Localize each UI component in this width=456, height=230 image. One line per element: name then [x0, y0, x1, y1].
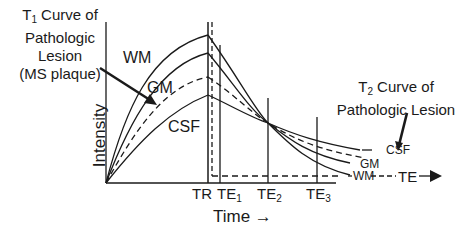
tick-te3: TE3 — [306, 186, 331, 204]
csf-label-left: CSF — [168, 119, 200, 135]
t2-title: T2 Curve of — [336, 78, 456, 101]
tick-te3-text: TE — [306, 185, 325, 202]
gm-label-left: GM — [147, 80, 173, 96]
x-axis-label: Time → — [213, 208, 272, 225]
wm-label-left: WM — [123, 50, 151, 66]
tick-te2-sub: 2 — [276, 193, 282, 204]
tick-te1-text: TE — [217, 185, 236, 202]
tick-te3-sub: 3 — [325, 193, 331, 204]
csf-label-right: CSF — [386, 144, 410, 156]
t1-annotation: T1 Curve of Pathologic Lesion (MS plaque… — [4, 6, 116, 83]
t2-title-t: T — [358, 78, 367, 95]
tick-te2: TE2 — [257, 186, 282, 204]
tick-te2-text: TE — [257, 185, 276, 202]
te-arrowhead-icon — [430, 170, 442, 182]
y-axis-label: Intensity — [91, 96, 108, 176]
t1-title-t: T — [22, 6, 31, 23]
t1-curve-wm — [106, 35, 208, 183]
tick-tr: TR — [192, 186, 212, 201]
t2-curve-gm — [208, 53, 350, 163]
wm-label-right: WM — [353, 170, 374, 182]
t1-line2: Pathologic — [4, 29, 116, 47]
t1-title: T1 Curve of — [4, 6, 116, 29]
t1-line4: (MS plaque) — [4, 65, 116, 83]
t1-line3: Lesion — [4, 47, 116, 65]
t2-annotation: T2 Curve of Pathologic Lesion — [336, 78, 456, 119]
tick-te1-sub: 1 — [236, 193, 242, 204]
t2-line2: Pathologic Lesion — [336, 101, 456, 119]
tick-te1: TE1 — [217, 186, 242, 204]
tick-tr-text: TR — [192, 185, 212, 202]
t1-title-rest: Curve of — [37, 6, 98, 23]
te-arrow-label: TE — [398, 169, 417, 184]
t2-title-rest: Curve of — [373, 78, 434, 95]
